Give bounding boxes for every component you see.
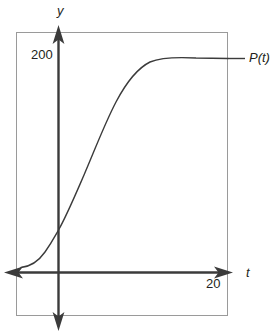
x-tick-label-20: 20: [206, 276, 220, 291]
logistic-curve-path: [21, 57, 228, 267]
y-tick-label-200: 200: [31, 47, 53, 62]
y-axis-label: y: [56, 3, 65, 18]
t-axis-label: t: [246, 265, 251, 280]
figure-container: y 200 P(t) 20 t: [0, 0, 279, 334]
curve-label-pt: P(t): [249, 50, 270, 65]
logistic-graph-svg: y 200 P(t) 20 t: [0, 0, 279, 334]
